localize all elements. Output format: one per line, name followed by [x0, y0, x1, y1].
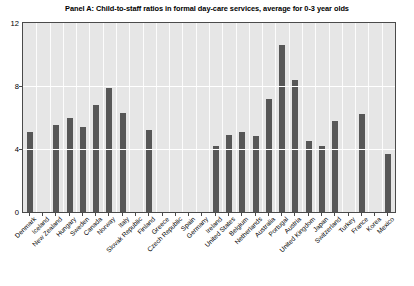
y-axis: 04812: [0, 22, 22, 213]
gridline-vertical: [368, 23, 369, 212]
gridline-vertical: [289, 23, 290, 212]
bar: [385, 154, 391, 212]
gridline-vertical: [209, 23, 210, 212]
bar: [146, 130, 152, 212]
gridline-vertical: [103, 23, 104, 212]
bar: [279, 45, 285, 212]
bar: [67, 118, 73, 213]
gridline-vertical: [355, 23, 356, 212]
bar: [306, 141, 312, 212]
gridline-vertical: [143, 23, 144, 212]
gridline-vertical: [63, 23, 64, 212]
bar: [266, 99, 272, 212]
bar: [120, 113, 126, 212]
bar: [213, 146, 219, 212]
gridline-vertical: [182, 23, 183, 212]
bar: [359, 114, 365, 212]
bar: [332, 121, 338, 212]
y-tick-label: 0: [15, 208, 19, 217]
bar: [319, 146, 325, 212]
gridline-vertical: [315, 23, 316, 212]
gridline-vertical: [222, 23, 223, 212]
gridline-vertical: [89, 23, 90, 212]
bar: [53, 125, 59, 212]
bar: [292, 80, 298, 212]
bar: [93, 105, 99, 212]
gridline-vertical: [196, 23, 197, 212]
gridline-vertical: [382, 23, 383, 212]
gridline-vertical: [329, 23, 330, 212]
gridline-vertical: [236, 23, 237, 212]
gridline-vertical: [169, 23, 170, 212]
gridline-vertical: [342, 23, 343, 212]
chart-root: Panel A: Child-to-staff ratios in formal…: [0, 0, 414, 286]
bar: [239, 132, 245, 212]
bar: [226, 135, 232, 212]
y-tick-label: 12: [11, 19, 19, 28]
gridline-vertical: [262, 23, 263, 212]
x-axis-labels: DenmarkIcelandNew ZealandHungarySwedenCa…: [22, 216, 396, 286]
gridline-vertical: [275, 23, 276, 212]
bar: [253, 136, 259, 212]
plot-area: [22, 22, 396, 213]
gridline-vertical: [50, 23, 51, 212]
gridline-vertical: [36, 23, 37, 212]
gridline-vertical: [76, 23, 77, 212]
bar: [80, 127, 86, 212]
bar: [27, 132, 33, 212]
chart-title: Panel A: Child-to-staff ratios in formal…: [0, 4, 414, 13]
gridline-vertical: [156, 23, 157, 212]
gridline-vertical: [129, 23, 130, 212]
gridline-vertical: [116, 23, 117, 212]
gridline-vertical: [249, 23, 250, 212]
gridline-vertical: [302, 23, 303, 212]
